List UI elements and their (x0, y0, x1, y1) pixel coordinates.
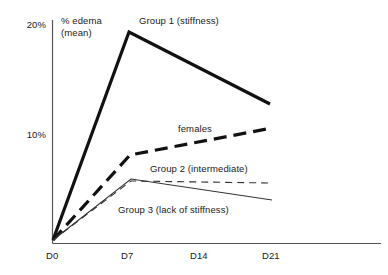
y-axis-title-line-2: (mean) (61, 27, 92, 39)
y-tick-label-20: 20% (8, 19, 46, 31)
x-tick-label-d21: D21 (262, 250, 280, 262)
series-label-group-1: Group 1 (stiffness) (139, 15, 219, 27)
x-tick-label-d0: D0 (46, 250, 58, 262)
series-label-group-3: Group 3 (lack of stiffness) (118, 204, 229, 216)
x-tick-label-d14: D14 (190, 250, 208, 262)
y-tick-label-10: 10% (8, 129, 46, 141)
x-tick-label-d7: D7 (121, 250, 133, 262)
y-axis-title-line-1: % edema (61, 15, 102, 27)
edema-line-chart: 20% 10% % edema (mean) D0 D7 D14 D21 Gro… (0, 0, 388, 275)
series-label-group-2: Group 2 (intermediate) (150, 163, 248, 175)
chart-canvas (0, 0, 388, 275)
series-label-females: females (178, 123, 212, 135)
